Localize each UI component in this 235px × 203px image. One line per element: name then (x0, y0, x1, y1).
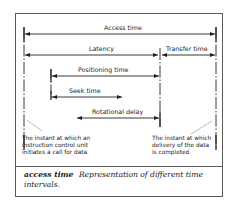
positioning-time-label: Positioning time (78, 67, 128, 73)
note-line: delivery of the data (152, 142, 211, 149)
call-instant-note: The instant at which an instruction cont… (22, 135, 90, 156)
note-line: instruction control unit (22, 142, 90, 149)
seek-time-label: Seek time (69, 88, 101, 94)
note-line: initiates a call for data (22, 149, 90, 156)
right-note-leader (191, 121, 212, 134)
caption-term: access time (24, 170, 73, 179)
figure-caption: access time Representation of different … (24, 170, 220, 189)
delivery-complete-note: The instant at which delivery of the dat… (152, 135, 211, 156)
rotational-delay-label: Rotational delay (92, 109, 143, 115)
latency-label: Latency (89, 46, 114, 52)
left-note-leader (27, 120, 42, 131)
access-time-label: Access time (104, 25, 142, 31)
note-line: The instant at which an (22, 135, 90, 142)
transfer-time-label: Transfer time (166, 46, 208, 52)
note-line: is completed (152, 149, 211, 156)
note-line: The instant at which (152, 135, 211, 142)
